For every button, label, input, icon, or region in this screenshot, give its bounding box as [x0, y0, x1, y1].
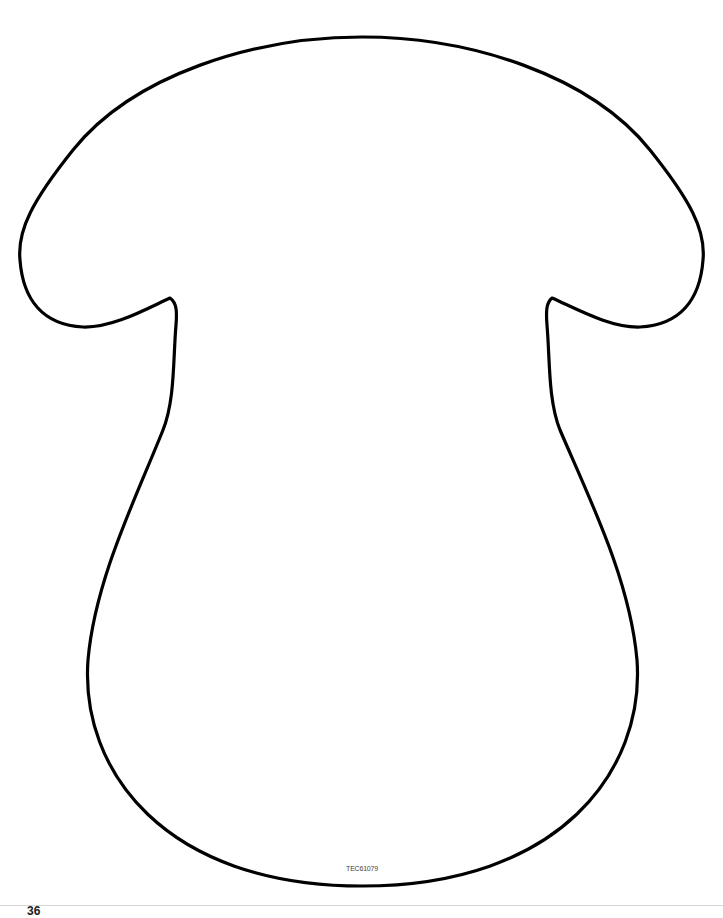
- template-code: TEC61079: [337, 865, 387, 872]
- mushroom-outline-path: [20, 37, 704, 886]
- page-number-fragment: 36: [27, 905, 40, 917]
- page-edge-divider: [0, 905, 723, 906]
